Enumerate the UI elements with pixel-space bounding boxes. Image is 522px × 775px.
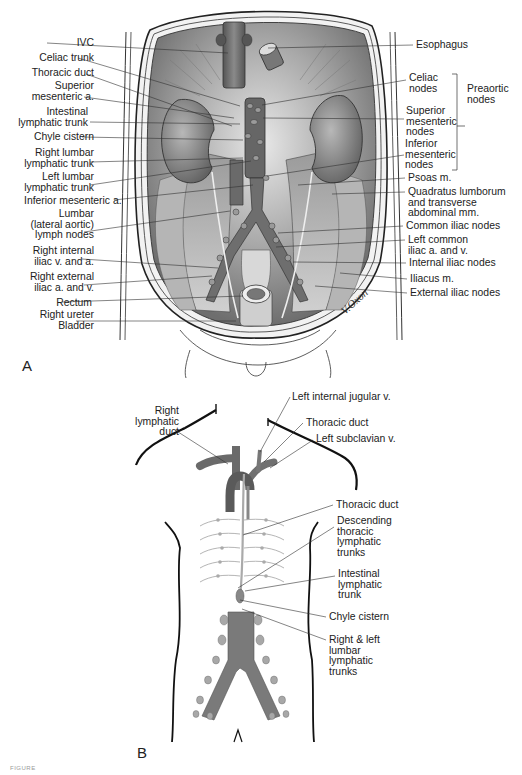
label-rectum: Rectum	[22, 298, 92, 309]
label-celiac-trunk: Celiac trunk	[24, 53, 94, 64]
figure-caption: FIGURE	[10, 765, 36, 771]
label-esophagus: Esophagus	[416, 40, 468, 51]
label-bladder: Bladder	[24, 321, 94, 332]
label-right-lumbar-lymphatic-trunk: Right lumbar lymphatic trunk	[24, 148, 94, 169]
label-right-and-left-lumbar-lymphatic-trunks: Right & left lumbar lymphatic trunks	[329, 635, 380, 677]
panel-b-illustration	[136, 404, 357, 742]
label-lumbar-lateral-aortic-lymph-nodes: Lumbar (lateral aortic) lymph nodes	[24, 209, 94, 241]
label-superior-mesenteric-nodes: Superior mesenteric nodes	[406, 106, 457, 138]
label-thoracic-duct-mid: Thoracic duct	[336, 500, 398, 511]
label-chyle-cistern-b: Chyle cistern	[329, 612, 389, 623]
panel-b-letter: B	[137, 744, 147, 761]
label-ivc: IVC	[24, 38, 94, 49]
label-quadratus-lumborum: Quadratus lumborum and transverse abdomi…	[408, 187, 506, 219]
label-thoracic-duct: Thoracic duct	[24, 68, 94, 79]
label-iliacus-m: Iliacus m.	[410, 274, 454, 285]
label-chyle-cistern: Chyle cistern	[24, 132, 94, 143]
label-inferior-mesenteric-nodes: Inferior mesenteric nodes	[405, 139, 456, 171]
label-left-lumbar-lymphatic-trunk: Left lumbar lymphatic trunk	[24, 172, 94, 193]
label-right-internal-iliac-v-and-a: Right internal iliac v. and a.	[24, 246, 94, 267]
label-right-lymphatic-duct: Right lymphatic duct	[135, 406, 179, 438]
panel-a-letter: A	[22, 357, 32, 374]
panel-b-leader-lines	[175, 397, 335, 640]
label-internal-iliac-nodes: Internal iliac nodes	[409, 258, 496, 269]
label-thoracic-duct-upper: Thoracic duct	[306, 418, 368, 429]
label-left-internal-jugular-v: Left internal jugular v.	[292, 392, 391, 403]
label-right-ureter: Right ureter	[24, 310, 94, 321]
label-inferior-mesenteric-a: Inferior mesenteric a.	[24, 196, 94, 207]
label-superior-mesenteric-a: Superior mesenteric a.	[24, 81, 94, 102]
label-right-external-iliac-a-and-v: Right external iliac a. and v.	[24, 272, 94, 293]
label-external-iliac-nodes: External iliac nodes	[410, 288, 500, 299]
label-left-common-iliac-a-and-v: Left common iliac a. and v.	[408, 235, 468, 256]
label-left-subclavian-v: Left subclavian v.	[316, 434, 396, 445]
label-intestinal-lymphatic-trunk: Intestinal lymphatic trunk	[18, 107, 88, 128]
preaortic-nodes-label: Preaortic nodes	[467, 84, 509, 105]
label-common-iliac-nodes: Common iliac nodes	[406, 221, 500, 232]
label-intestinal-lymphatic-trunk-b: Intestinal lymphatic trunk	[338, 569, 382, 601]
label-psoas-m: Psoas m.	[408, 173, 451, 184]
label-celiac-nodes: Celiac nodes	[409, 73, 438, 94]
label-descending-thoracic-lymphatic-trunks: Descending thoracic lymphatic trunks	[337, 516, 392, 558]
